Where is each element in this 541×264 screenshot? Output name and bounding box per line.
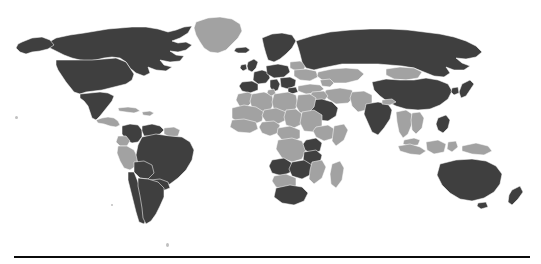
scan-speck-center — [166, 243, 169, 247]
country-spain-portugal — [239, 81, 258, 93]
world-map-figure — [0, 0, 541, 264]
country-angola — [269, 158, 292, 176]
world-map-svg — [0, 0, 541, 248]
bottom-divider-rule — [14, 256, 530, 258]
country-iceland — [234, 47, 250, 53]
country-chad — [284, 109, 302, 128]
scan-speck-south-america — [111, 204, 113, 206]
map-container — [0, 0, 541, 248]
scan-speck-left — [15, 116, 18, 119]
